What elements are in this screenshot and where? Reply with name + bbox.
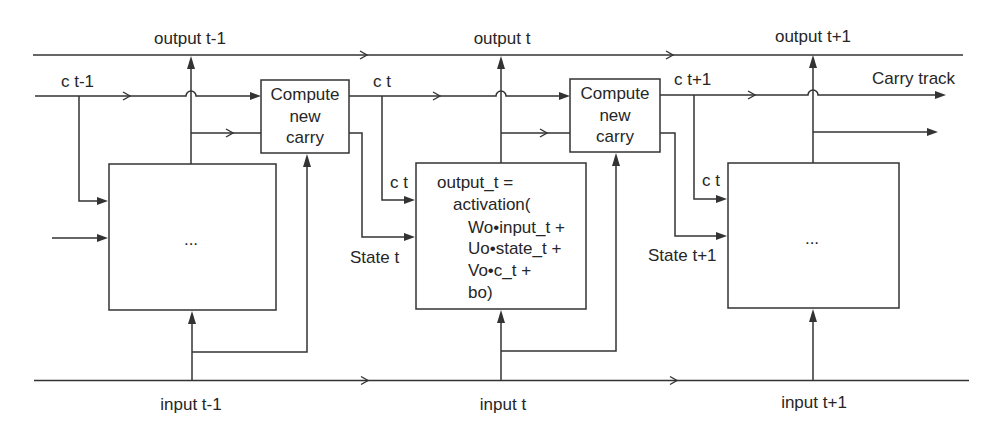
cell-1-ellipsis: ... xyxy=(184,230,198,249)
compute-box-2-line-1: Compute xyxy=(581,84,650,103)
carry-label-1: c t-1 xyxy=(61,72,94,91)
cell-2-formula-line-1: output_t = xyxy=(437,173,513,192)
cell-2-formula-line-6: bo) xyxy=(468,283,493,302)
cell-3-carry-in-label: c t xyxy=(702,171,720,190)
output-label-3: output t+1 xyxy=(775,27,851,46)
carry-track-label: Carry track xyxy=(872,69,956,88)
carry-label-2: c t xyxy=(373,72,391,91)
cell-2-formula-line-2: activation( xyxy=(453,195,531,214)
cell-2-formula-line-5: Vo•c_t + xyxy=(468,261,531,280)
compute-box-2-line-2: new xyxy=(599,106,631,125)
compute-box-1-line-2: new xyxy=(289,107,321,126)
cell-2-state-in-label: State t xyxy=(350,248,399,267)
input-label-1: input t-1 xyxy=(160,395,221,414)
compute-box-1-line-3: carry xyxy=(286,128,324,147)
input-label-3: input t+1 xyxy=(781,393,847,412)
input-label-2: input t xyxy=(480,395,527,414)
output-label-1: output t-1 xyxy=(154,29,226,48)
carry-label-3: c t+1 xyxy=(674,70,711,89)
cell-2-formula-line-4: Uo•state_t + xyxy=(468,239,561,258)
compute-box-1-line-1: Compute xyxy=(271,85,340,104)
compute-box-2-line-3: carry xyxy=(596,127,634,146)
output-label-2: output t xyxy=(474,29,531,48)
cell-3-state-in-label: State t+1 xyxy=(648,246,717,265)
cell-2-formula-line-3: Wo•input_t + xyxy=(468,218,565,237)
cell-2-carry-in-label: c t xyxy=(390,173,408,192)
cell-3-ellipsis: ... xyxy=(805,229,819,248)
carry-track-diagram: output t-1 output t output t+1 c t-1 c t… xyxy=(0,0,999,435)
